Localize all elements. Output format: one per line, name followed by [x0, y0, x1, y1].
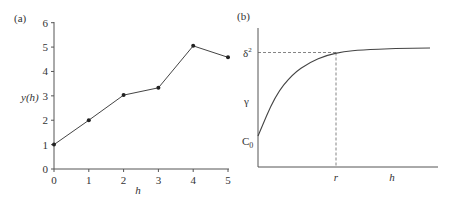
range-label: r	[334, 171, 339, 183]
panel-b-label: (b)	[237, 10, 250, 23]
figure: (a) 0123456 012345 y(h) h (b) δ2 γ C0 r …	[0, 0, 455, 200]
x-tick-label: 3	[156, 174, 162, 186]
y-tick-label: 6	[43, 17, 49, 29]
y-tick-label: 4	[43, 65, 49, 77]
y-tick-label: 3	[43, 90, 49, 102]
panel-a-x-axis-label: h	[135, 184, 141, 196]
panel-a-x-ticks: 012345	[51, 169, 231, 186]
data-point	[226, 55, 230, 59]
panel-a: (a) 0123456 012345 y(h) h	[14, 12, 231, 196]
data-point	[122, 93, 126, 97]
gamma-label: γ	[243, 95, 249, 107]
data-point	[156, 86, 160, 90]
panel-a-label: (a)	[14, 12, 27, 25]
x-tick-label: 0	[51, 174, 57, 186]
panel-a-data-line	[54, 46, 228, 145]
nugget-label: C0	[242, 135, 253, 150]
sill-label: δ2	[243, 46, 252, 59]
x-tick-label: 4	[190, 174, 196, 186]
x-tick-label: 5	[225, 174, 231, 186]
data-point	[87, 118, 91, 122]
panel-b-x-axis-label: h	[389, 171, 395, 183]
panel-a-y-ticks: 0123456	[43, 17, 55, 175]
panel-a-data-markers	[52, 44, 230, 147]
y-tick-label: 1	[43, 139, 49, 151]
data-point	[191, 44, 195, 48]
y-tick-label: 5	[43, 41, 49, 53]
data-point	[52, 143, 56, 147]
y-tick-label: 2	[43, 114, 49, 126]
y-tick-label: 0	[43, 163, 49, 175]
panel-a-y-axis-label: y(h)	[20, 91, 39, 104]
x-tick-label: 2	[121, 174, 127, 186]
x-tick-label: 1	[86, 174, 92, 186]
variogram-curve	[258, 48, 430, 136]
panel-a-ylabel-text: y(h)	[20, 91, 39, 104]
panel-b: (b) δ2 γ C0 r h	[237, 10, 438, 183]
